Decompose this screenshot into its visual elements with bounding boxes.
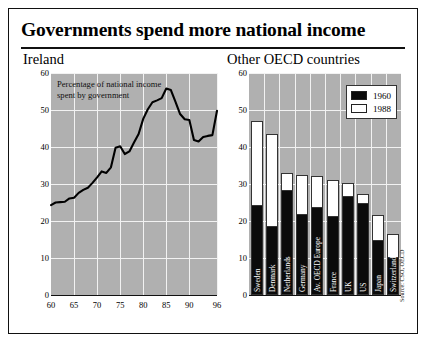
y-tick-label: 20 (227, 216, 247, 226)
chart-legend: 1960 1988 (346, 85, 397, 119)
legend-item-1960: 1960 (351, 89, 391, 102)
bar-group: Germany (296, 175, 308, 295)
bar-group: Sweden (251, 121, 263, 295)
panel-ireland: Ireland Percentage of national income sp… (23, 51, 219, 321)
legend-swatch-1960 (351, 91, 367, 100)
y-tick-label: 10 (25, 253, 49, 263)
x-tick-label: 80 (139, 300, 148, 310)
x-tick-label: 85 (162, 300, 171, 310)
panel-title-ireland: Ireland (23, 51, 64, 68)
x-tick-label: 90 (185, 300, 194, 310)
bar-category-label: Japan (374, 275, 383, 292)
bar-group: Denmark (266, 134, 278, 295)
bar-label-container: Sweden (252, 238, 262, 294)
bar-label-container: Av. OECD Europe (312, 238, 322, 294)
line-annotation-1: Percentage of national income (57, 79, 161, 90)
x-tick-label: 70 (93, 300, 102, 310)
bar-category-label: UK (343, 281, 352, 292)
legend-item-1988: 1988 (351, 102, 391, 115)
bar-x-axis-line (249, 295, 401, 296)
title-container: Governments spend more national income (21, 17, 405, 49)
panel-title-oecd: Other OECD countries (227, 51, 360, 68)
bar-category-label: Switzerland (389, 257, 398, 292)
bar-label-container: France (328, 238, 338, 294)
y-tick-label: 50 (25, 105, 49, 115)
y-tick-label: 40 (25, 142, 49, 152)
y-tick-label: 40 (227, 142, 247, 152)
bar-group: US (357, 194, 369, 295)
bar-category-label: Germany (298, 264, 307, 292)
line-x-axis-line (51, 295, 217, 296)
bar-category-label: Netherlands (282, 256, 291, 292)
bar-label-container: Germany (297, 238, 307, 294)
bar-category-label: France (328, 272, 337, 292)
legend-swatch-1988 (351, 104, 367, 113)
y-tick-label: 0 (227, 290, 247, 300)
x-tick-label: 60 (47, 300, 56, 310)
legend-label-1988: 1988 (373, 104, 391, 114)
bar-label-container: Netherlands (282, 238, 292, 294)
bar-label-container: US (358, 238, 368, 294)
bar-category-label: Denmark (267, 264, 276, 292)
line-plot-area: Percentage of national income spent by g… (51, 73, 217, 295)
bar-category-label: US (358, 283, 367, 292)
bar-label-container: UK (343, 238, 353, 294)
y-tick-label: 0 (25, 290, 49, 300)
ireland-line-series (51, 73, 217, 295)
x-tick-label: 65 (70, 300, 79, 310)
bar-category-label: Av. OECD Europe (313, 237, 322, 292)
chart-figure: Governments spend more national income I… (8, 8, 418, 334)
bar-group: UK (342, 183, 354, 295)
panel-oecd: Other OECD countries SwedenDenmarkNether… (227, 51, 413, 321)
y-tick-label: 30 (227, 179, 247, 189)
y-tick-label: 60 (25, 68, 49, 78)
bar-group: Av. OECD Europe (311, 176, 323, 295)
bar-group: France (327, 180, 339, 295)
bar-label-container: Denmark (267, 238, 277, 294)
legend-label-1960: 1960 (373, 91, 391, 101)
gridline-vertical (217, 73, 218, 295)
gridline-horizontal (249, 73, 401, 74)
bar-plot-area: SwedenDenmarkNetherlandsGermanyAv. OECD … (249, 73, 401, 295)
x-tick-label: 96 (213, 300, 222, 310)
y-tick-label: 10 (227, 253, 247, 263)
page-title: Governments spend more national income (21, 17, 405, 43)
y-tick-label: 50 (227, 105, 247, 115)
source-note: Source: CSO, OECD (398, 250, 405, 302)
x-tick-label: 75 (116, 300, 125, 310)
bar-group: Netherlands (281, 173, 293, 295)
bar-label-container: Japan (373, 238, 383, 294)
y-tick-label: 60 (227, 68, 247, 78)
bar-label-container: Switzerland (388, 238, 398, 294)
line-annotation-2: spent by government (57, 90, 129, 101)
bar-group: Japan (372, 215, 384, 295)
y-tick-label: 20 (25, 216, 49, 226)
y-tick-label: 30 (25, 179, 49, 189)
bar-category-label: Sweden (252, 269, 261, 292)
